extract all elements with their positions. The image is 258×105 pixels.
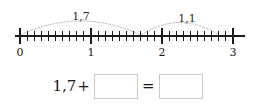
equation-first-term: 1,7 bbox=[52, 79, 76, 94]
axis-tick-label-1: 1 bbox=[88, 47, 95, 58]
jump-arc-label-2: 1,1 bbox=[178, 13, 196, 24]
number-line-figure: 1,7 1,1 0 1 2 3 bbox=[0, 0, 258, 62]
jump-arc-1 bbox=[20, 21, 141, 35]
axis-tick-label-3: 3 bbox=[230, 47, 237, 58]
jump-arc-label-1: 1,7 bbox=[72, 11, 90, 22]
axis-tick-label-0: 0 bbox=[17, 47, 24, 58]
axis-tick-label-2: 2 bbox=[159, 47, 166, 58]
plus-operator: + bbox=[76, 79, 91, 94]
equals-operator: = bbox=[141, 79, 156, 94]
number-line-graphic bbox=[0, 0, 258, 62]
equation-row: 1,7 + = bbox=[0, 68, 258, 105]
addend-answer-box[interactable] bbox=[94, 74, 138, 99]
number-line-worksheet: 1,7 1,1 0 1 2 3 1,7 + = bbox=[0, 0, 258, 105]
sum-answer-box[interactable] bbox=[159, 74, 203, 99]
